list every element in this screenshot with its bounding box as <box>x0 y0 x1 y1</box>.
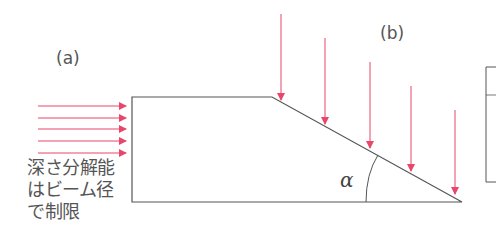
beams-b <box>281 14 455 194</box>
caption-depth-resolution: 深さ分解能 はビーム径 で制限 <box>27 157 115 223</box>
panel-a-label: (a) <box>56 48 80 68</box>
caption-line: 深さ分解能 <box>27 157 115 179</box>
caption-line: はビーム径 <box>27 179 115 201</box>
caption-line: で制限 <box>27 201 115 223</box>
panel-b-label: (b) <box>380 23 404 43</box>
sample-outline <box>132 97 462 202</box>
angle-alpha-label: α <box>340 168 354 192</box>
right-bracket <box>486 67 496 182</box>
angle-arc <box>366 155 378 202</box>
beams-a <box>38 106 126 153</box>
